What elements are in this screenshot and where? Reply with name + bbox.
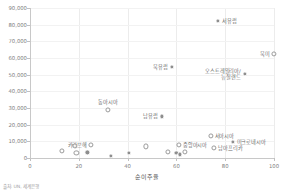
data-point-unlabeled[interactable]: [59, 148, 64, 153]
plot-area: 서유럽북미북유럽오스트레일리아/뉴질랜드동아시아남유럽서아시아미크로네시아남아프…: [30, 8, 274, 158]
data-point-label: 북유럽: [153, 64, 168, 70]
data-point[interactable]: [159, 114, 164, 119]
data-point[interactable]: [88, 142, 93, 147]
gridline-horizontal: [30, 58, 274, 59]
data-point[interactable]: [176, 142, 181, 147]
gridline-horizontal: [30, 91, 274, 92]
data-point-unlabeled[interactable]: [182, 149, 187, 154]
data-point-label: 동아시아: [98, 99, 117, 105]
x-axis-title: 순이주율: [4, 172, 286, 181]
x-axis-tick-mark: [274, 158, 275, 161]
gridline-horizontal: [30, 125, 274, 126]
data-point[interactable]: [230, 140, 235, 145]
data-point[interactable]: [271, 51, 276, 56]
gridline-horizontal: [30, 108, 274, 109]
y-axis-tick-label: 80,000: [0, 22, 27, 28]
scatter-chart: 서유럽북미북유럽오스트레일리아/뉴질랜드동아시아남유럽서아시아미크로네시아남아프…: [0, 0, 286, 194]
x-axis-tick-label: 40: [117, 163, 139, 169]
data-point[interactable]: [212, 145, 217, 150]
gridline-horizontal: [30, 25, 274, 26]
data-point[interactable]: [105, 107, 110, 112]
y-axis-tick-label: 90,000: [0, 5, 27, 11]
data-point-unlabeled[interactable]: [177, 152, 182, 157]
gridline-horizontal: [30, 41, 274, 42]
y-axis-tick-label: 70,000: [0, 38, 27, 44]
data-point-label: 서아시아: [215, 133, 234, 139]
data-point-label: 중앙아시아: [183, 142, 207, 148]
data-point[interactable]: [169, 65, 174, 70]
data-point[interactable]: [215, 18, 220, 23]
data-point[interactable]: [208, 133, 213, 138]
data-point-label: 남아프리카: [218, 145, 242, 151]
data-point-label: 서유럽: [222, 18, 237, 24]
x-axis-tick-label: 20: [68, 163, 90, 169]
x-axis-line: [30, 158, 274, 159]
data-point-unlabeled[interactable]: [85, 150, 90, 155]
gridline-vertical: [274, 8, 275, 158]
data-point-label: 북미: [260, 51, 270, 57]
data-point-unlabeled[interactable]: [126, 150, 131, 155]
y-axis-tick-label: 50,000: [0, 72, 27, 78]
y-axis-tick-label: 20,000: [0, 122, 27, 128]
data-point-unlabeled[interactable]: [143, 144, 148, 149]
y-axis-tick-label: 30,000: [0, 105, 27, 111]
y-axis-tick-label: 0: [0, 155, 27, 161]
data-point-unlabeled[interactable]: [165, 149, 170, 154]
gridline-vertical: [128, 8, 129, 158]
source-note: 출처: UN, 세계은행: [3, 183, 39, 189]
x-axis-tick-label: 100: [263, 163, 285, 169]
y-axis-tick-label: 10,000: [0, 138, 27, 144]
x-axis-tick-label: 80: [214, 163, 236, 169]
gridline-vertical: [176, 8, 177, 158]
x-axis-tick-label: 0: [19, 163, 41, 169]
y-axis-tick-label: 60,000: [0, 55, 27, 61]
x-axis-tick-label: 60: [165, 163, 187, 169]
data-point-label-line: 뉴질랜드: [201, 74, 241, 80]
gridline-vertical: [79, 8, 80, 158]
data-point-label: 남유럽: [143, 113, 158, 119]
y-axis-line: [30, 8, 31, 158]
data-point-label: 오스트레일리아/뉴질랜드: [201, 68, 241, 80]
gridline-horizontal: [30, 8, 274, 9]
y-axis-tick-label: 40,000: [0, 88, 27, 94]
